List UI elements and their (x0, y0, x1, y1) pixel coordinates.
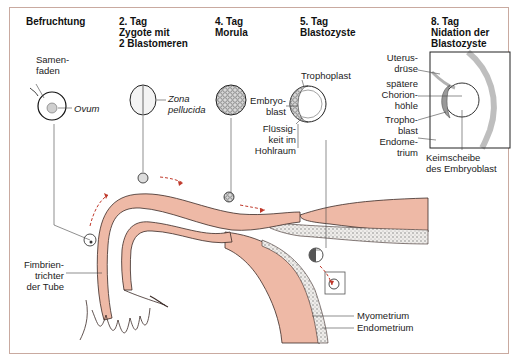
stage-title-day8-line3: Blastozyste (431, 38, 487, 50)
label-keimscheibe-1: Keimscheibe (426, 152, 480, 163)
label-uterusdruese-1: Uterus- (376, 52, 418, 63)
label-samenfaden-2: faden (36, 65, 60, 76)
label-endometrium: Endometrium (357, 322, 414, 333)
label-chorion-3: höhle (376, 100, 418, 111)
morula-in-tube (224, 192, 234, 202)
label-fimbrien-1: Fimbrien- (10, 259, 64, 270)
label-trophoblast-1: Tropho- (376, 114, 418, 125)
label-ovum: Ovum (74, 103, 99, 114)
label-zona-2: pellucida (168, 104, 206, 115)
label-zona-1: Zona (168, 93, 190, 104)
label-fimbrien-3: der Tube (10, 281, 64, 292)
label-trophoblast-2: blast (376, 125, 418, 136)
label-chorion-1: spätere (376, 78, 418, 89)
stage-title-befruchtung: Befruchtung (26, 16, 85, 28)
stage-title-day4-line2: Morula (215, 27, 248, 39)
label-fluessig-3: Hohlraum (240, 145, 296, 156)
label-embryoblast-1: Embryo- (248, 95, 286, 106)
label-chorion-2: Chorion- (376, 89, 418, 100)
label-trophoplast: Trophoplast (301, 70, 351, 81)
label-fluessig-2: keit im (240, 134, 296, 145)
label-endometrium-inset-2: trium (376, 147, 418, 158)
label-samenfaden-1: Samen- (36, 54, 69, 65)
label-keimscheibe-2: des Embryoblast (426, 163, 497, 174)
label-endometrium-inset-1: Endome- (376, 136, 418, 147)
label-myometrium: Myometrium (357, 310, 409, 321)
stage-title-day2-line3: 2 Blastomeren (119, 38, 188, 50)
stage-title-day5-line2: Blastozyste (300, 27, 356, 39)
reproduction-diagram (0, 0, 521, 364)
label-uterusdruese-2: drüse (376, 63, 418, 74)
label-embryoblast-2: blast (248, 106, 286, 117)
label-fimbrien-2: trichter (10, 270, 64, 281)
zygote-in-tube (138, 173, 148, 183)
label-fluessig-1: Flüssig- (240, 123, 296, 134)
